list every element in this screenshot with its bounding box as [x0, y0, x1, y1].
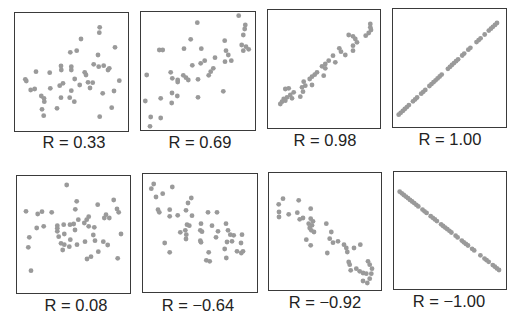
data-point: [278, 102, 283, 107]
data-point: [407, 103, 412, 108]
data-point: [96, 249, 101, 254]
scatter-plot: [141, 12, 257, 132]
data-point: [85, 257, 90, 262]
data-point: [97, 30, 102, 35]
data-point: [178, 230, 183, 235]
data-point: [184, 208, 189, 213]
data-point: [170, 76, 175, 81]
label-r-neg-0-64: R = −0.64: [150, 296, 246, 315]
data-point: [276, 202, 281, 207]
data-point: [222, 38, 227, 43]
data-point: [301, 89, 306, 94]
data-point: [311, 219, 316, 224]
data-point: [83, 239, 88, 244]
data-point: [148, 115, 153, 120]
data-point: [304, 237, 309, 242]
data-point: [97, 114, 102, 119]
data-point: [199, 46, 204, 51]
data-point: [91, 62, 96, 67]
data-point: [160, 48, 165, 53]
data-point: [74, 48, 79, 53]
data-point: [183, 228, 188, 233]
data-point: [196, 95, 201, 100]
data-point: [97, 25, 102, 30]
data-point: [339, 49, 344, 54]
data-point: [358, 242, 363, 247]
data-point: [160, 191, 165, 196]
scatter-panel-6: [142, 173, 258, 293]
data-point: [111, 198, 116, 203]
data-point: [482, 32, 487, 37]
data-point: [424, 211, 429, 216]
data-point: [468, 45, 473, 50]
data-point: [149, 186, 154, 191]
data-point: [34, 226, 39, 231]
scatter-panel-2: [140, 11, 256, 131]
data-point: [364, 271, 369, 276]
data-point: [225, 240, 230, 245]
data-point: [369, 271, 374, 276]
data-point: [93, 238, 98, 243]
data-point: [60, 248, 65, 253]
data-point: [186, 201, 191, 206]
data-point: [329, 230, 334, 235]
data-point: [92, 225, 97, 230]
data-point: [216, 229, 221, 234]
scatter-panel-4: [392, 8, 507, 128]
data-point: [466, 243, 471, 248]
data-point: [82, 221, 87, 226]
data-point: [101, 63, 106, 68]
data-point: [355, 40, 360, 45]
data-point: [347, 262, 352, 267]
data-point: [246, 47, 251, 52]
data-point: [187, 223, 192, 228]
data-point: [277, 215, 282, 220]
data-point: [207, 259, 212, 264]
data-point: [106, 68, 111, 73]
data-point: [462, 51, 467, 56]
data-point: [184, 232, 189, 237]
data-point: [105, 243, 110, 248]
data-point: [222, 247, 227, 252]
data-point: [370, 266, 375, 271]
data-point: [24, 209, 29, 214]
data-point: [323, 66, 328, 71]
data-point: [71, 222, 76, 227]
data-point: [241, 33, 246, 38]
data-point: [199, 240, 204, 245]
data-point: [308, 206, 313, 211]
data-point: [68, 50, 73, 55]
data-point: [221, 89, 226, 94]
data-point: [367, 276, 372, 281]
data-point: [74, 199, 79, 204]
data-point: [333, 60, 338, 65]
data-point: [154, 195, 159, 200]
data-point: [42, 99, 47, 104]
data-point: [240, 232, 245, 237]
scatter-panel-5: [16, 175, 131, 294]
data-point: [189, 196, 194, 201]
data-point: [167, 250, 172, 255]
data-point: [199, 221, 204, 226]
data-point: [213, 55, 218, 60]
data-point: [41, 113, 46, 118]
data-point: [89, 254, 94, 259]
scatter-plot: [143, 174, 259, 294]
data-point: [226, 53, 231, 58]
data-point: [190, 213, 195, 218]
data-point: [48, 86, 53, 91]
data-point: [224, 48, 229, 53]
data-point: [182, 46, 187, 51]
data-point: [184, 237, 189, 242]
data-point: [24, 79, 29, 84]
data-point: [116, 210, 121, 215]
data-point: [367, 262, 372, 267]
data-point: [57, 83, 62, 88]
data-point: [61, 222, 66, 227]
data-point: [91, 233, 96, 238]
data-point: [361, 279, 366, 284]
data-point: [169, 101, 174, 106]
data-point: [157, 210, 162, 215]
data-point: [144, 73, 149, 78]
data-point: [290, 96, 295, 101]
